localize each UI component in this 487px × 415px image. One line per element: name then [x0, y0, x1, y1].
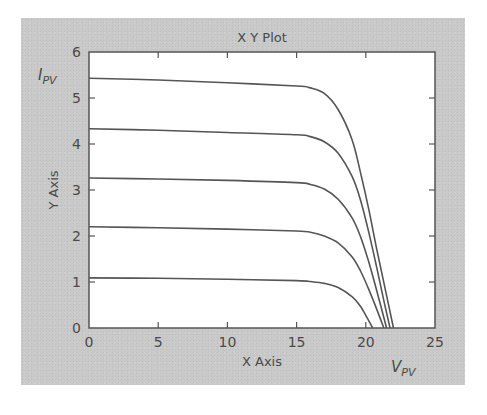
y-tick-label: 2 — [72, 228, 81, 244]
x-tick-label: 10 — [218, 334, 236, 350]
y-tick-label: 5 — [72, 90, 81, 106]
y-tick-label: 6 — [72, 44, 81, 60]
x-tick-label: 20 — [357, 334, 375, 350]
x-tick-label: 25 — [426, 334, 444, 350]
y-tick-label: 0 — [72, 320, 81, 336]
y-variable-label: IPV — [38, 66, 58, 87]
x-axis-label: X Axis — [242, 354, 282, 369]
y-axis-label: Y Axis — [46, 170, 61, 210]
xy-plot: 05101520250123456 X Y Plot X Axis Y Axis… — [0, 0, 487, 415]
y-tick-label: 1 — [72, 274, 81, 290]
plot-area — [89, 52, 435, 328]
x-variable-label: VPV — [391, 358, 417, 379]
y-tick-label: 3 — [72, 182, 81, 198]
x-tick-label: 5 — [154, 334, 163, 350]
x-var-sub: PV — [401, 366, 417, 379]
x-tick-label: 15 — [288, 334, 306, 350]
chart-title: X Y Plot — [237, 30, 287, 45]
y-tick-label: 4 — [72, 136, 81, 152]
x-tick-label: 0 — [85, 334, 94, 350]
y-var-sub: PV — [42, 74, 58, 87]
